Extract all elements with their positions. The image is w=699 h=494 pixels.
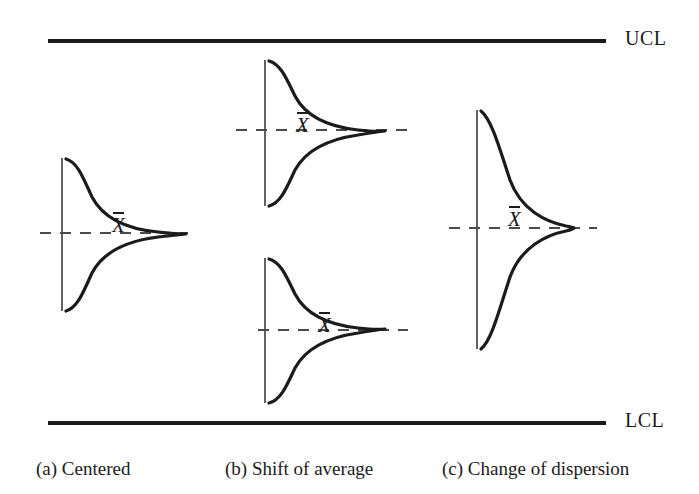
- figure-canvas: [0, 0, 699, 494]
- caption-panel-b: (b) Shift of average: [225, 458, 373, 480]
- caption-panel-c: (c) Change of dispersion: [442, 458, 629, 480]
- panel-b-lower-shifted: [258, 258, 408, 403]
- lcl-label: LCL: [625, 409, 664, 432]
- mean-symbol-glyph: X: [112, 215, 125, 236]
- mean-symbol-glyph: X: [508, 209, 521, 230]
- ucl-label: UCL: [625, 27, 667, 50]
- panel-b-upper-shifted: [236, 60, 408, 206]
- mean-symbol-glyph: X: [318, 315, 331, 336]
- panel-c-distribution-curve: [481, 111, 574, 349]
- panel-b-upper-distribution-curve: [269, 61, 385, 206]
- caption-panel-a: (a) Centered: [36, 458, 130, 480]
- mean-symbol-panel-c: X: [508, 206, 521, 230]
- mean-symbol-glyph: X: [296, 115, 309, 136]
- panel-c-dispersion: [449, 110, 597, 349]
- mean-symbol-panel-b-upper: X: [296, 112, 309, 136]
- spc-distribution-figure: UCL LCL X X X X (a) Centered (b) Shift o…: [0, 0, 699, 494]
- mean-symbol-panel-a: X: [112, 212, 125, 236]
- panel-a-distribution-curve: [66, 159, 186, 311]
- mean-symbol-panel-b-lower: X: [318, 312, 331, 336]
